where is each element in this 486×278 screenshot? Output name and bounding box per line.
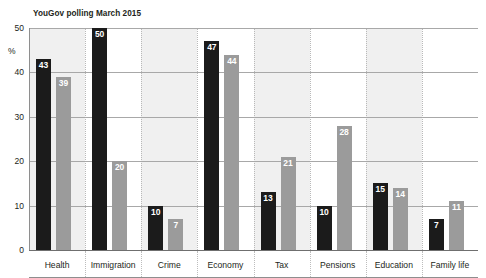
bar-grey[interactable]: 28 [337,126,352,250]
bar-value-label: 15 [373,185,388,194]
bar-grey[interactable]: 39 [56,77,71,250]
bar-group: 1028 [310,28,366,250]
bar-grey[interactable]: 11 [449,201,464,250]
bar-value-label: 44 [224,57,239,66]
x-axis-label-immigration: Immigration [85,260,141,270]
bar-dark[interactable]: 47 [204,41,219,250]
bar-value-label: 20 [112,163,127,172]
y-axis-tick-label: 0 [19,245,24,255]
x-axis-separator [254,251,256,277]
x-axis-label-health: Health [29,260,85,270]
bar-group: 1514 [366,28,422,250]
x-axis-label-pensions: Pensions [310,260,366,270]
chart-subtitle: YouGov polling March 2015 [33,9,141,18]
x-axis-separator [422,251,424,277]
bar-group: 4339 [29,28,85,250]
x-axis-separator [141,251,143,277]
bar-value-label: 10 [317,208,332,217]
bar-value-label: 7 [168,221,183,230]
bar-value-label: 47 [204,43,219,52]
bar-value-label: 21 [281,159,296,168]
x-axis-label-family-life: Family life [422,260,478,270]
bar-dark[interactable]: 43 [36,59,51,250]
bar-dark[interactable]: 10 [317,206,332,250]
y-axis-tick-label: 50 [15,23,24,33]
bar-dark[interactable]: 7 [429,219,444,250]
bar-grey[interactable]: 21 [281,157,296,250]
bar-grey[interactable]: 44 [224,55,239,250]
x-axis-label-economy: Economy [197,260,253,270]
x-axis-separator [366,251,368,277]
x-axis-label-education: Education [366,260,422,270]
bar-group: 711 [422,28,478,250]
y-axis-tick-label: 30 [15,112,24,122]
bar-value-label: 14 [393,190,408,199]
y-axis-tick-label: 20 [15,156,24,166]
bar-value-label: 50 [92,30,107,39]
x-axis-separator [85,251,87,277]
x-axis-label-tax: Tax [254,260,310,270]
bar-value-label: 13 [261,194,276,203]
bar-dark[interactable]: 15 [373,183,388,250]
bar-value-label: 28 [337,128,352,137]
plot-area: 01020304050 4339502010747441321102815147… [29,28,478,250]
x-axis: HealthImmigrationCrimeEconomyTaxPensions… [29,251,478,278]
y-axis-unit-label: % [8,46,16,56]
bar-dark[interactable]: 13 [261,192,276,250]
chart-title: What mattered to the voters before the e… [4,0,319,3]
bar-value-label: 7 [429,221,444,230]
bar-grey[interactable]: 14 [393,188,408,250]
bar-value-label: 43 [36,61,51,70]
bar-grey[interactable]: 7 [168,219,183,250]
bar-dark[interactable]: 10 [148,206,163,250]
x-axis-label-crime: Crime [141,260,197,270]
x-axis-separator [310,251,312,277]
bar-grey[interactable]: 20 [112,161,127,250]
bar-group: 107 [141,28,197,250]
y-axis-tick-label: 40 [15,67,24,77]
bar-dark[interactable]: 50 [92,28,107,250]
bar-group: 1321 [254,28,310,250]
bar-group: 5020 [85,28,141,250]
bar-group: 4744 [197,28,253,250]
bar-value-label: 39 [56,79,71,88]
y-axis-tick-label: 10 [15,201,24,211]
bar-value-label: 10 [148,208,163,217]
bar-value-label: 11 [449,203,464,212]
x-axis-separator [197,251,199,277]
